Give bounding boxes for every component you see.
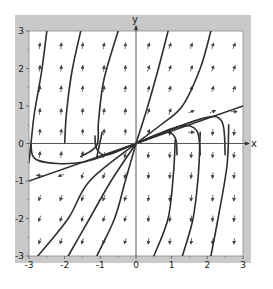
y-tick-label: -3 [15, 251, 24, 261]
x-tick-label: 0 [133, 260, 139, 270]
x-tick-label: 1 [169, 260, 175, 270]
y-tick-label: 3 [18, 26, 24, 36]
y-tick-label: -1 [15, 176, 24, 186]
y-axis-label: y [132, 14, 138, 25]
direction-field-figure: -3-2-10123-3-2-10123 x y [0, 0, 273, 289]
y-tick-label: -2 [15, 214, 24, 224]
x-tick-label: 2 [204, 260, 210, 270]
y-tick-label: 1 [18, 101, 24, 111]
phase-portrait-svg: -3-2-10123-3-2-10123 x y [0, 0, 273, 289]
x-axis-label: x [251, 138, 257, 149]
x-tick-label: -3 [25, 260, 34, 270]
x-tick-label: -1 [96, 260, 105, 270]
y-tick-label: 0 [18, 139, 24, 149]
x-tick-label: 3 [240, 260, 246, 270]
y-tick-label: 2 [18, 64, 24, 74]
x-tick-label: -2 [60, 260, 69, 270]
